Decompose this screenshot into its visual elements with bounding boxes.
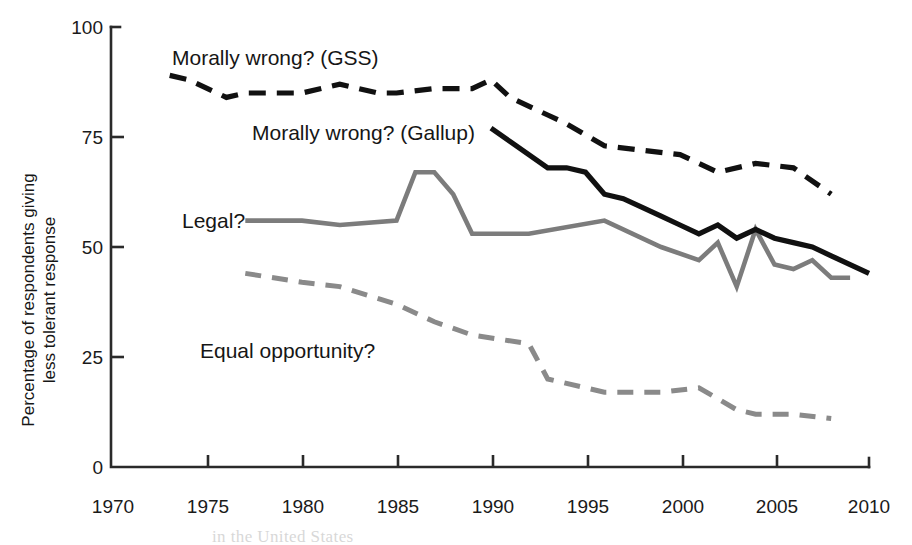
x-tick-label-1970: 1970 — [92, 496, 134, 517]
x-tick-label-1980: 1980 — [282, 496, 324, 517]
x-tick-label-2000: 2000 — [662, 496, 704, 517]
x-tick-label-2010: 2010 — [848, 496, 890, 517]
annotation-gss: Morally wrong? (GSS) — [172, 46, 379, 69]
x-tick-label-2005: 2005 — [756, 496, 798, 517]
chart-svg: Percentage of respondents giving less to… — [0, 0, 912, 545]
y-tick-labels: 100 75 50 25 0 — [71, 17, 103, 478]
series-annotations: Morally wrong? (GSS) Morally wrong? (Gal… — [172, 46, 475, 362]
annotation-equal: Equal opportunity? — [200, 339, 375, 362]
y-tick-label-75: 75 — [82, 127, 103, 148]
x-tick-labels: 1970 1975 1980 1985 1990 1995 2000 2005 … — [92, 496, 890, 517]
y-axis-label: Percentage of respondents giving less to… — [19, 173, 59, 426]
y-tick-label-0: 0 — [92, 457, 103, 478]
annotation-gallup: Morally wrong? (Gallup) — [252, 121, 475, 144]
x-tick-label-1975: 1975 — [187, 496, 229, 517]
annotation-legal: Legal? — [182, 209, 245, 232]
y-tick-label-50: 50 — [82, 237, 103, 258]
x-tick-label-1985: 1985 — [377, 496, 419, 517]
y-axis-label-line1: Percentage of respondents giving — [19, 173, 38, 426]
axis-lines — [111, 27, 869, 467]
x-tick-label-1995: 1995 — [567, 496, 609, 517]
y-tick-label-25: 25 — [82, 347, 103, 368]
chart-figure: Percentage of respondents giving less to… — [0, 0, 912, 545]
y-axis-label-line2: less tolerant response — [40, 217, 59, 383]
x-tick-label-1990: 1990 — [472, 496, 514, 517]
axes — [111, 27, 869, 467]
y-tick-label-100: 100 — [71, 17, 103, 38]
